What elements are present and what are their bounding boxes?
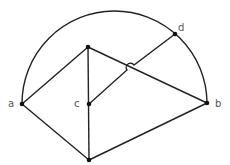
edge-a-bottom [22, 104, 89, 160]
edge-bottom-b [89, 103, 207, 160]
label-c: c [74, 99, 80, 109]
label-b: b [215, 99, 221, 109]
edge-c-d-with-hop [89, 34, 175, 104]
node-bottom [87, 158, 92, 163]
label-d: d [178, 23, 184, 33]
node-d [173, 32, 178, 37]
node-b [205, 101, 210, 106]
label-a: a [8, 99, 14, 109]
node-top [86, 45, 91, 50]
graph-diagram [0, 0, 230, 165]
node-c [87, 102, 92, 107]
node-a [20, 102, 25, 107]
edge-a-top [22, 47, 88, 104]
